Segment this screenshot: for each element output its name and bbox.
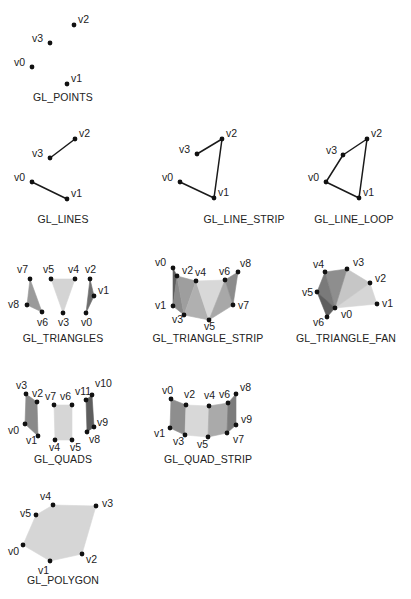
panel-title: GL_LINE_LOOP bbox=[314, 213, 393, 225]
vertex-dot-icon bbox=[52, 403, 57, 408]
vertex-dot-icon bbox=[323, 270, 328, 275]
vertex-label: v7 bbox=[233, 433, 244, 445]
vertex-dot-icon bbox=[325, 315, 330, 320]
vertex-label: v7 bbox=[238, 299, 249, 311]
vertex-label: v0 bbox=[341, 308, 352, 320]
vertex-label: v0 bbox=[155, 256, 166, 268]
vertex-label: v0 bbox=[162, 171, 173, 183]
panel-points: v0v1v2v3GL_POINTS bbox=[14, 13, 93, 103]
vertex-label: v0 bbox=[308, 171, 319, 183]
panel-title: GL_TRIANGLE_FAN bbox=[296, 332, 396, 344]
vertex-label: v2 bbox=[184, 388, 195, 400]
vertex-dot-icon bbox=[207, 404, 212, 409]
panel-triangles: v0v1v2v3v4v5v6v7v8GL_TRIANGLES bbox=[8, 263, 109, 344]
vertex-label: v4 bbox=[40, 490, 51, 502]
vertex-dot-icon bbox=[365, 137, 370, 142]
vertex-dot-icon bbox=[35, 400, 40, 405]
primitive-edge bbox=[180, 182, 214, 198]
vertex-dot-icon bbox=[315, 290, 320, 295]
vertex-label: v5 bbox=[20, 507, 31, 519]
primitive-face bbox=[170, 399, 186, 435]
vertex-label: v3 bbox=[172, 313, 183, 325]
vertex-dot-icon bbox=[40, 310, 45, 315]
panel-title: GL_POLYGON bbox=[27, 574, 99, 586]
vertex-label: v3 bbox=[326, 144, 337, 156]
vertex-label: v1 bbox=[363, 186, 374, 198]
vertex-dot-icon bbox=[194, 279, 199, 284]
vertex-label: v4 bbox=[313, 258, 324, 270]
vertex-dot-icon bbox=[168, 426, 173, 431]
vertex-dot-icon bbox=[49, 277, 54, 282]
vertex-dot-icon bbox=[80, 552, 85, 557]
vertex-dot-icon bbox=[212, 196, 217, 201]
vertex-dot-icon bbox=[333, 306, 338, 311]
primitive-edge bbox=[32, 182, 67, 199]
vertex-label: v5 bbox=[43, 263, 54, 275]
vertex-label: v11 bbox=[75, 385, 91, 397]
panel-title: GL_QUADS bbox=[34, 453, 92, 465]
vertex-label: v9 bbox=[241, 413, 252, 425]
vertex-dot-icon bbox=[65, 82, 70, 87]
vertex-label: v0 bbox=[162, 384, 173, 396]
vertex-label: v3 bbox=[32, 147, 43, 159]
vertex-dot-icon bbox=[48, 41, 53, 46]
vertex-label: v3 bbox=[32, 32, 43, 44]
vertex-dot-icon bbox=[234, 392, 239, 397]
vertex-dot-icon bbox=[345, 267, 350, 272]
vertex-dot-icon bbox=[30, 180, 35, 185]
vertex-label: v0 bbox=[14, 171, 25, 183]
vertex-dot-icon bbox=[357, 196, 362, 201]
vertex-dot-icon bbox=[51, 503, 56, 508]
vertex-label: v1 bbox=[155, 299, 166, 311]
vertex-label: v5 bbox=[197, 438, 208, 450]
opengl-primitives-diagram: v0v1v2v3GL_POINTSv0v1v2v3GL_LINESv0v1v2v… bbox=[0, 0, 411, 599]
vertex-label: v2 bbox=[226, 127, 237, 139]
panel-line-strip: v0v1v2v3GL_LINE_STRIP bbox=[162, 127, 285, 225]
vertex-label: v2 bbox=[182, 264, 193, 276]
vertex-dot-icon bbox=[184, 403, 189, 408]
vertex-dot-icon bbox=[225, 431, 230, 436]
panel-title: GL_LINE_STRIP bbox=[203, 213, 284, 225]
vertex-label: v2 bbox=[375, 272, 386, 284]
vertex-label: v1 bbox=[154, 427, 165, 439]
vertex-dot-icon bbox=[171, 266, 176, 271]
vertex-dot-icon bbox=[195, 152, 200, 157]
vertex-dot-icon bbox=[72, 23, 77, 28]
vertex-dot-icon bbox=[25, 303, 30, 308]
vertex-dot-icon bbox=[368, 281, 373, 286]
vertex-label: v2 bbox=[79, 127, 90, 139]
vertex-label: v10 bbox=[95, 377, 112, 389]
panel-title: GL_LINES bbox=[38, 213, 89, 225]
vertex-label: v6 bbox=[219, 265, 230, 277]
panel-title: GL_QUAD_STRIP bbox=[164, 453, 252, 465]
vertex-label: v5 bbox=[70, 441, 81, 453]
vertex-dot-icon bbox=[84, 311, 89, 316]
vertex-label: v5 bbox=[302, 286, 313, 298]
primitive-edge bbox=[50, 139, 75, 158]
vertex-label: v0 bbox=[81, 316, 92, 328]
panel-triangle-strip: v0v1v2v3v4v5v6v7v8GL_TRIANGLE_STRIP bbox=[153, 256, 264, 344]
vertex-dot-icon bbox=[23, 422, 28, 427]
vertex-label: v8 bbox=[240, 381, 251, 393]
vertex-dot-icon bbox=[24, 392, 29, 397]
panel-title: GL_TRIANGLE_STRIP bbox=[153, 332, 264, 344]
primitive-edge bbox=[326, 182, 359, 198]
vertex-dot-icon bbox=[92, 425, 97, 430]
vertex-dot-icon bbox=[236, 270, 241, 275]
vertex-dot-icon bbox=[88, 277, 93, 282]
primitive-face bbox=[54, 405, 72, 440]
vertex-label: v5 bbox=[204, 320, 215, 332]
vertex-dot-icon bbox=[169, 397, 174, 402]
vertex-label: v1 bbox=[98, 284, 109, 296]
vertex-label: v3 bbox=[102, 497, 113, 509]
vertex-label: v4 bbox=[68, 263, 79, 275]
primitive-face bbox=[51, 279, 75, 313]
panel-title: GL_TRIANGLES bbox=[23, 332, 104, 344]
vertex-dot-icon bbox=[341, 153, 346, 158]
panel-line-loop: v0v1v2v3GL_LINE_LOOP bbox=[308, 127, 394, 225]
vertex-dot-icon bbox=[73, 277, 78, 282]
vertex-label: v0 bbox=[8, 545, 19, 557]
vertex-label: v6 bbox=[219, 388, 230, 400]
primitive-edge bbox=[343, 139, 367, 155]
vertex-dot-icon bbox=[178, 180, 183, 185]
